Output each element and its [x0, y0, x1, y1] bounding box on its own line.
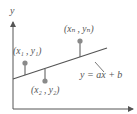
data-point-n [77, 38, 82, 43]
data-point-2 [42, 78, 47, 83]
data-point-1 [22, 60, 27, 65]
y-axis-label: y [10, 6, 14, 16]
point-2-label: (x₂ , y₂) [31, 86, 60, 96]
point-1-label: (x₁ , y₁) [13, 47, 42, 57]
regression-equation-label: y = ax + b [80, 70, 122, 80]
point-n-label: (xₙ , yₙ) [64, 25, 94, 35]
regression-diagram [0, 0, 137, 114]
